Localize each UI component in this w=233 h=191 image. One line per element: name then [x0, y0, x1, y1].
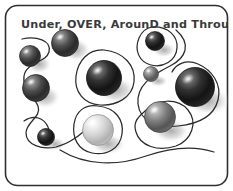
sphere-1 [20, 46, 41, 67]
sphere-10 [145, 102, 176, 133]
sphere-3 [38, 129, 55, 146]
sphere-2 [23, 75, 50, 102]
artwork-title: Under, OVER, ArounD and Through [21, 18, 233, 31]
sphere-9 [176, 68, 215, 107]
illustration-canvas: Under, OVER, ArounD and Through [0, 0, 233, 191]
sphere-4 [52, 30, 79, 57]
sphere-6 [83, 115, 114, 146]
artwork-svg: Under, OVER, ArounD and Through [0, 0, 233, 191]
sphere-5 [87, 61, 122, 96]
sphere-8 [144, 67, 159, 82]
sphere-7 [146, 32, 165, 51]
